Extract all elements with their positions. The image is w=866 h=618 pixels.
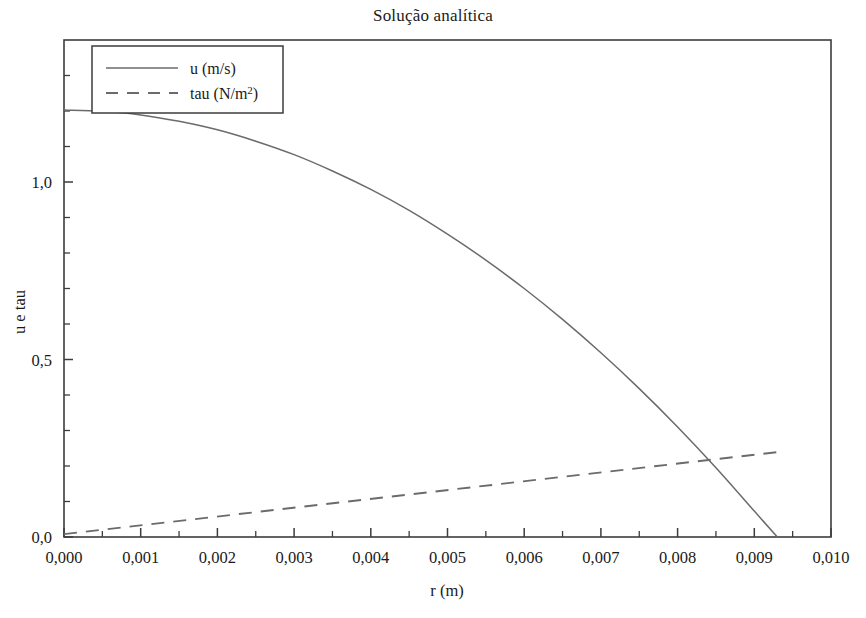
plot-frame (64, 40, 831, 537)
series-line-tau (64, 452, 777, 534)
y-tick-label: 0,5 (31, 351, 52, 370)
y-axis-minor-ticks (64, 76, 70, 502)
x-axis-title: r (m) (430, 581, 463, 600)
x-tick-label: 0,007 (582, 548, 619, 567)
x-tick-label: 0,004 (352, 548, 389, 567)
series-line-u (64, 110, 777, 537)
legend-label-tau-main: tau (N/m (190, 85, 248, 103)
x-tick-label: 0,006 (506, 548, 543, 567)
x-tick-label: 0,001 (122, 548, 159, 567)
y-axis-tick-labels: 0,00,51,0 (31, 173, 52, 547)
chart-container: Solução analítica 0,0000,0010,0020,0030,… (0, 0, 866, 618)
legend-box (92, 46, 283, 113)
x-tick-label: 0,000 (45, 548, 82, 567)
x-tick-label: 0,005 (429, 548, 466, 567)
x-tick-label: 0,002 (199, 548, 236, 567)
x-tick-label: 0,003 (276, 548, 313, 567)
x-tick-label: 0,008 (659, 548, 696, 567)
legend-label-u: u (m/s) (190, 60, 236, 78)
y-tick-label: 1,0 (31, 173, 52, 192)
y-tick-label: 0,0 (31, 528, 52, 547)
legend: u (m/s) tau (N/m2) (92, 46, 283, 113)
y-axis-title: u e tau (10, 290, 29, 334)
x-tick-label: 0,009 (736, 548, 773, 567)
x-axis-tick-labels: 0,0000,0010,0020,0030,0040,0050,0060,007… (45, 548, 849, 567)
y-axis-major-ticks (64, 182, 73, 537)
x-tick-label: 0,010 (812, 548, 849, 567)
plot-area: 0,0000,0010,0020,0030,0040,0050,0060,007… (0, 0, 866, 618)
legend-label-tau-end: ) (253, 85, 258, 103)
